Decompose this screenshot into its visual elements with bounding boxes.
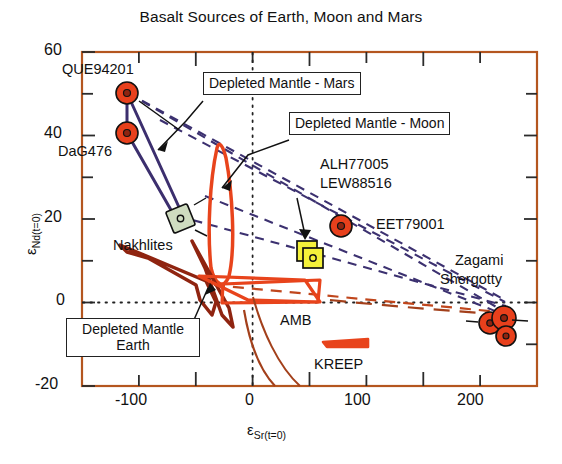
field-kreep — [323, 339, 368, 347]
x-axis-label-epsilon: ε — [247, 421, 254, 438]
shergotty-error-bar — [512, 320, 528, 321]
x-axis-label-subscript: Sr(t=0) — [254, 429, 286, 441]
label-zagami: Zagami — [455, 253, 503, 268]
data-point-shergotty-2[interactable] — [496, 326, 516, 346]
mixing-curve-left — [244, 310, 275, 386]
y-axis-label-epsilon: ε — [22, 248, 39, 255]
x-tick-100: 100 — [344, 391, 371, 409]
label-kreep: KREEP — [314, 357, 363, 372]
mixing-curve-right — [253, 297, 300, 386]
x-tick-neg100: -100 — [115, 391, 147, 409]
y-tick-0: 0 — [56, 291, 65, 309]
y-axis-label: εNd(t=0) — [22, 213, 42, 255]
y-axis-label-subscript: Nd(t=0) — [30, 213, 42, 248]
x-tick-200: 200 — [457, 391, 484, 409]
field-depleted-mantle-moon — [209, 144, 233, 284]
callout-depleted-mantle-moon: Depleted Mantle - Moon — [289, 112, 450, 135]
callout-dm-earth-line2: Earth — [72, 337, 194, 353]
x-tick-0: 0 — [245, 391, 254, 409]
callout-depleted-mantle-earth: Depleted Mantle Earth — [66, 318, 200, 357]
y-tick-neg20: -20 — [35, 375, 58, 393]
x-axis-label: εSr(t=0) — [247, 421, 286, 441]
data-point-nakhlites[interactable] — [166, 198, 207, 236]
label-eet79001: EET79001 — [376, 217, 445, 232]
y-tick-20: 20 — [44, 208, 62, 226]
label-nakhlites: Nakhlites — [113, 238, 173, 253]
label-que94201: QUE94201 — [62, 62, 134, 77]
label-alh77005: ALH77005 — [320, 157, 389, 172]
data-point-que94201[interactable] — [116, 82, 138, 104]
data-point-eet79001[interactable] — [330, 215, 352, 237]
label-lew88516: LEW88516 — [320, 176, 392, 191]
data-point-dag476[interactable] — [116, 122, 138, 144]
chart-figure: Basalt Sources of Earth, Moon and Mars — [0, 0, 562, 464]
callout-dm-earth-line1: Depleted Mantle — [72, 321, 194, 337]
data-point-alh77005-lew88516[interactable] — [297, 241, 323, 268]
label-shergotty: Shergotty — [440, 272, 502, 287]
zagami-error-bar — [466, 321, 478, 322]
y-tick-40: 40 — [44, 124, 62, 142]
label-dag476: DaG476 — [58, 144, 112, 159]
callout-depleted-mantle-mars: Depleted Mantle - Mars — [203, 72, 361, 95]
y-tick-60: 60 — [44, 41, 62, 59]
label-amb: AMB — [280, 313, 311, 328]
